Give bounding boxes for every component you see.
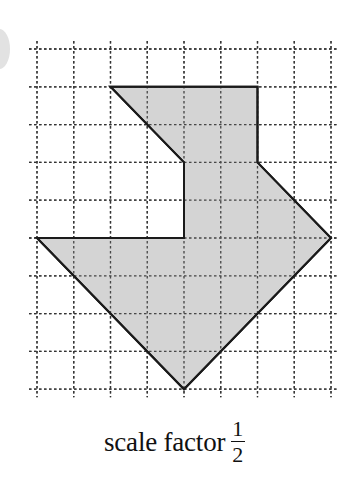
fraction-denominator: 2	[232, 442, 243, 466]
grid-diagram	[0, 0, 349, 479]
caption-label: scale factor	[104, 429, 225, 456]
fraction-numerator: 1	[230, 418, 245, 441]
scale-factor-fraction: 1 2	[230, 418, 245, 467]
caption: scale factor 1 2	[104, 418, 245, 466]
